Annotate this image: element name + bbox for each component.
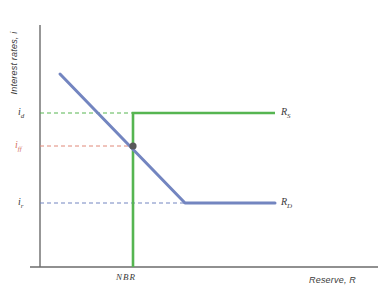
y-axis-title: Interest rates, i [9,15,19,111]
chart-canvas [0,0,383,297]
curve-rd-sub: D [287,202,292,210]
curve-rs-sub: S [287,112,291,120]
equilibrium-point [129,142,136,149]
y-tick-id-sub: d [21,112,25,120]
y-tick-label-ir: ir [18,196,24,210]
x-axis-title: Reserve, R [309,275,356,285]
y-tick-iff-sub: ff [18,145,22,153]
curve-label-rd: RD [281,196,292,210]
y-tick-label-id: id [18,106,24,120]
y-tick-label-iff: iff [15,139,22,153]
plot-background [0,0,383,297]
y-tick-ir-sub: r [21,202,24,210]
x-tick-label-nbr: NBR [116,272,136,282]
curve-label-rs: RS [281,106,291,120]
reserve-market-chart: Interest rates, i Reserve, R id iff ir R… [0,0,383,297]
